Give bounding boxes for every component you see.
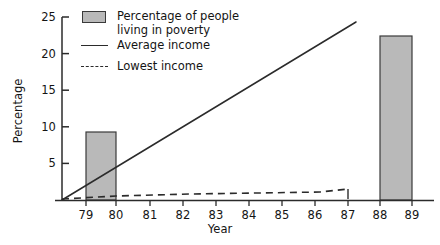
y-tick-20: 20 bbox=[30, 47, 56, 61]
x-tick-84: 84 bbox=[234, 208, 264, 222]
bar-88-89 bbox=[380, 36, 412, 200]
legend-swatch-icon bbox=[80, 10, 110, 24]
x-tick-85: 85 bbox=[267, 208, 297, 222]
legend-solid-line-icon bbox=[80, 39, 110, 53]
legend-item-average-income: Average income bbox=[80, 39, 280, 53]
y-tick-25: 25 bbox=[30, 10, 56, 24]
x-tick-87: 87 bbox=[333, 208, 363, 222]
bar-79-80 bbox=[86, 132, 116, 200]
x-tick-86: 86 bbox=[300, 208, 330, 222]
x-tick-80: 80 bbox=[101, 208, 131, 222]
chart-figure: 25 20 15 10 5 79 80 81 82 83 84 85 86 87… bbox=[0, 0, 440, 245]
x-axis bbox=[55, 201, 434, 207]
y-tick-15: 15 bbox=[30, 83, 56, 97]
x-axis-label: Year bbox=[0, 222, 440, 236]
y-tick-5: 5 bbox=[30, 156, 56, 170]
x-tick-79: 79 bbox=[71, 208, 101, 222]
legend-label-poverty: Percentage of people living in poverty bbox=[117, 10, 239, 37]
legend-label-average-income: Average income bbox=[117, 39, 210, 53]
y-axis-label: Percentage bbox=[11, 71, 25, 151]
x-tick-88: 88 bbox=[365, 208, 395, 222]
x-tick-82: 82 bbox=[168, 208, 198, 222]
x-tick-89: 89 bbox=[397, 208, 427, 222]
chart-legend: Percentage of people living in poverty A… bbox=[80, 10, 280, 76]
legend-dashed-line-icon bbox=[80, 60, 110, 74]
legend-item-lowest-income: Lowest income bbox=[80, 60, 280, 74]
y-tick-10: 10 bbox=[30, 120, 56, 134]
x-tick-81: 81 bbox=[135, 208, 165, 222]
legend-label-lowest-income: Lowest income bbox=[117, 60, 203, 74]
y-axis bbox=[62, 17, 69, 201]
x-tick-83: 83 bbox=[201, 208, 231, 222]
legend-item-poverty: Percentage of people living in poverty bbox=[80, 10, 280, 37]
